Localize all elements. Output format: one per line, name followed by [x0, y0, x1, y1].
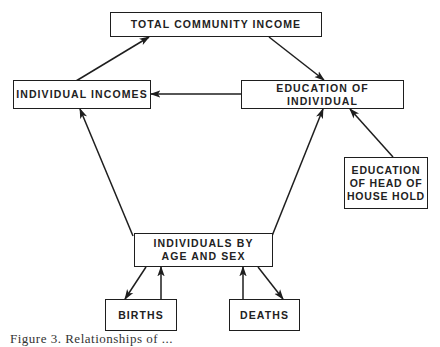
node-label: EDUCATION OF INDIVIDUAL	[242, 82, 403, 108]
node-label: DEATHS	[240, 309, 289, 322]
node-label: INDIVIDUAL INCOMES	[16, 88, 148, 101]
node-label-line-1: INDIVIDUALS BY	[154, 237, 254, 250]
arrow-agesex-to-deaths	[258, 267, 283, 299]
node-label-line-3: HOUSE HOLD	[347, 190, 425, 203]
node-education-of-individual: EDUCATION OF INDIVIDUAL	[241, 80, 404, 109]
node-births: BIRTHS	[105, 299, 177, 331]
arrow-head-edu-to-education	[350, 109, 393, 157]
node-label-line-2: OF HEAD OF	[350, 177, 423, 190]
arrow-agesex-to-education	[272, 109, 323, 236]
node-deaths: DEATHS	[229, 299, 300, 331]
node-individuals-by-age-and-sex: INDIVIDUALS BY AGE AND SEX	[134, 233, 273, 267]
node-label: BIRTHS	[118, 309, 164, 322]
node-label-line-1: EDUCATION	[352, 164, 421, 177]
arrow-incomes-to-total	[76, 37, 149, 81]
node-total-community-income: TOTAL COMMUNITY INCOME	[110, 12, 322, 37]
node-education-of-head-of-household: EDUCATION OF HEAD OF HOUSE HOLD	[344, 157, 428, 209]
arrow-total-to-education	[269, 37, 324, 80]
node-label: TOTAL COMMUNITY INCOME	[131, 18, 301, 31]
arrow-agesex-to-incomes	[80, 109, 133, 236]
figure-caption: Figure 3. Relationships of ...	[10, 331, 173, 347]
node-individual-incomes: INDIVIDUAL INCOMES	[13, 80, 151, 109]
node-label-line-2: AGE AND SEX	[161, 250, 245, 263]
arrow-agesex-to-births	[125, 267, 146, 299]
